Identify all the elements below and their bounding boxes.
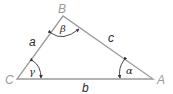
vertex-label-b: B — [58, 2, 66, 16]
angle-label-beta: β — [59, 23, 66, 34]
angle-arc-alpha — [120, 60, 125, 78]
triangle-diagram: B C A a c b β γ α — [0, 0, 173, 94]
angle-label-alpha: α — [126, 65, 133, 76]
vertex-label-c: C — [5, 73, 14, 87]
side-label-c: c — [108, 31, 114, 45]
angle-label-gamma: γ — [29, 66, 35, 77]
side-label-a: a — [29, 35, 36, 49]
side-label-b: b — [82, 81, 89, 94]
vertex-label-a: A — [156, 73, 165, 87]
